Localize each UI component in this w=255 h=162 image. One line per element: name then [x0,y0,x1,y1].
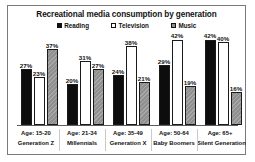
chart-container: Recreational media consumption by genera… [7,5,246,155]
bar-item: 37% [47,32,58,125]
bar-item: 42% [172,32,183,125]
bar-value-label: 21% [138,75,150,82]
chart-title: Recreational media consumption by genera… [8,10,245,19]
bar-item: 31% [80,32,91,125]
bar-value-label: 42% [171,32,183,39]
bar-group: 27%23%37% [21,32,58,125]
x-axis-category-label: Age: 65+Silent Generation [197,129,243,148]
bar-value-label: 20% [66,77,78,84]
category-age-range: Age: 15-20 [13,129,59,139]
bar-item: 40% [218,32,229,125]
legend-swatch-reading [57,23,62,28]
bar-item: 42% [205,32,216,125]
category-age-range: Age: 21-34 [59,129,105,139]
bar-music [185,86,196,125]
x-axis-labels: Age: 15-20Generation ZAge: 21-34Millenni… [13,129,241,153]
bar-item: 27% [21,32,32,125]
bar-television [172,40,183,126]
bar-television [80,61,91,125]
bar-value-label: 31% [79,54,91,61]
bar-television [34,77,45,125]
category-generation-name: Baby Boomers [151,139,197,149]
category-generation-name: Silent Generation [197,139,243,149]
bar-item: 38% [126,32,137,125]
bar-value-label: 37% [46,42,58,49]
legend-item-reading: Reading [57,22,89,29]
category-age-range: Age: 65+ [197,129,243,139]
chart-legend: Reading Television Music [8,22,245,29]
bar-music [231,92,242,125]
axis-separator [197,129,198,151]
bar-item: 20% [67,32,78,125]
axis-separator [151,129,152,151]
category-generation-name: Millennials [59,139,105,149]
plot-area: 27%23%37%20%31%27%24%38%21%29%42%19%42%4… [13,32,241,126]
legend-item-television: Television [111,22,149,29]
bar-value-label: 23% [33,70,45,77]
bar-group: 29%42%19% [159,32,196,125]
legend-label-music: Music [178,22,196,29]
bar-group: 24%38%21% [113,32,150,125]
bar-item: 19% [185,32,196,125]
bar-value-label: 24% [112,68,124,75]
bar-item: 29% [159,32,170,125]
bar-item: 23% [34,32,45,125]
x-axis-line [17,125,238,126]
category-age-range: Age: 50-64 [151,129,197,139]
legend-label-reading: Reading [64,22,89,29]
bar-value-label: 19% [184,79,196,86]
bar-music [47,49,58,125]
legend-item-music: Music [171,22,196,29]
legend-swatch-music [171,23,176,28]
bar-reading [21,69,32,125]
bar-value-label: 27% [20,62,32,69]
bar-reading [205,40,216,126]
bar-value-label: 38% [125,39,137,46]
bar-item: 27% [93,32,104,125]
bar-television [126,46,137,125]
category-generation-name: Generation X [105,139,151,149]
x-axis-category-label: Age: 21-34Millennials [59,129,105,148]
axis-separator [105,129,106,151]
bar-group: 42%40%16% [205,32,242,125]
bar-value-label: 29% [158,58,170,65]
bar-music [93,69,104,125]
x-axis-category-label: Age: 35-49Generation X [105,129,151,148]
legend-swatch-television [111,23,116,28]
bar-reading [67,84,78,125]
bar-item: 16% [231,32,242,125]
bar-value-label: 42% [204,32,216,39]
bar-music [139,82,150,125]
x-axis-category-label: Age: 50-64Baby Boomers [151,129,197,148]
category-generation-name: Generation Z [13,139,59,149]
legend-label-television: Television [119,22,149,29]
bar-reading [159,65,170,125]
axis-separator [59,129,60,151]
bar-television [218,42,229,125]
bar-value-label: 27% [92,62,104,69]
bar-item: 21% [139,32,150,125]
bar-item: 24% [113,32,124,125]
bar-value-label: 16% [230,85,242,92]
bar-group: 20%31%27% [67,32,104,125]
category-age-range: Age: 35-49 [105,129,151,139]
bar-value-label: 40% [217,35,229,42]
x-axis-category-label: Age: 15-20Generation Z [13,129,59,148]
bar-reading [113,75,124,125]
